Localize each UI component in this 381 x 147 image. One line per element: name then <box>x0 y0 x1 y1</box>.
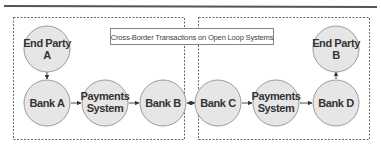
node-label: B <box>332 49 340 61</box>
top-rule <box>4 6 377 7</box>
node-label: A <box>43 49 51 61</box>
diagram-canvas: Cross-Border Transactions on Open Loop S… <box>0 0 381 147</box>
node-label: Bank D <box>318 97 354 109</box>
node-bank-b: Bank B <box>140 80 186 126</box>
node-bank-c: Bank C <box>195 80 241 126</box>
node-label: Payments <box>81 90 130 102</box>
node-bank-a: Bank A <box>24 80 70 126</box>
node-label: System <box>258 102 295 114</box>
node-label: Bank B <box>145 97 181 109</box>
node-payments-system-right: Payments System <box>252 80 301 126</box>
node-end-party-b: End Party B <box>312 26 361 72</box>
node-label: System <box>87 102 124 114</box>
node-payments-system-left: Payments System <box>81 80 130 126</box>
node-end-party-a: End Party A <box>23 26 72 72</box>
diagram-title: Cross-Border Transactions on Open Loop S… <box>111 33 274 42</box>
node-label: End Party <box>312 37 361 49</box>
node-label: Bank A <box>29 97 65 109</box>
node-label: Payments <box>252 90 301 102</box>
node-bank-d: Bank D <box>313 80 359 126</box>
node-label: Bank C <box>200 97 236 109</box>
node-label: End Party <box>23 37 72 49</box>
